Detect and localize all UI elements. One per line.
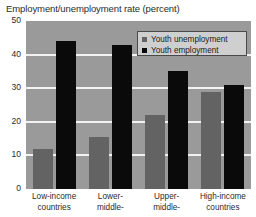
bar	[168, 71, 188, 189]
x-group-label: Lower-middle-	[82, 191, 138, 213]
legend-label: Youth employment	[151, 46, 219, 55]
bar	[112, 45, 132, 189]
chart-title: Employment/unemployment rate (percent)	[6, 3, 180, 14]
x-group-label: High-incomecountries	[195, 191, 251, 213]
x-axis: Low-incomecountriesLower-middle-Upper-mi…	[26, 191, 251, 217]
x-tick-label: Low-income	[26, 191, 82, 202]
legend-item: Youth employment	[142, 45, 243, 55]
x-tick-label: middle-	[139, 202, 195, 213]
legend-label: Youth unemployment	[151, 35, 228, 44]
bar	[224, 85, 244, 189]
x-tick-label: High-income	[195, 191, 251, 202]
x-group-label: Upper-middle-	[139, 191, 195, 213]
x-tick-label: countries	[195, 202, 251, 213]
bar	[89, 137, 109, 189]
x-group-label: Low-incomecountries	[26, 191, 82, 213]
y-tick-label: 40	[12, 50, 21, 59]
y-tick-label: 30	[12, 83, 21, 92]
y-tick-label: 50	[12, 16, 21, 25]
x-tick-label: Lower-	[82, 191, 138, 202]
bar	[201, 92, 221, 189]
bar	[56, 41, 76, 189]
x-tick-label: middle-	[82, 202, 138, 213]
bar	[33, 149, 53, 189]
x-tick-label: countries	[26, 202, 82, 213]
legend-swatch-icon	[142, 48, 147, 53]
legend-item: Youth unemployment	[142, 34, 243, 44]
y-tick-label: 0	[16, 184, 21, 193]
legend-swatch-icon	[142, 37, 147, 42]
bar	[145, 115, 165, 189]
y-tick-label: 20	[12, 117, 21, 126]
y-tick-label: 10	[12, 150, 21, 159]
x-tick-label: Upper-	[139, 191, 195, 202]
bar-chart: Employment/unemployment rate (percent) 0…	[0, 0, 256, 217]
y-axis: 01020304050	[0, 0, 24, 217]
chart-legend: Youth unemploymentYouth employment	[137, 31, 247, 56]
